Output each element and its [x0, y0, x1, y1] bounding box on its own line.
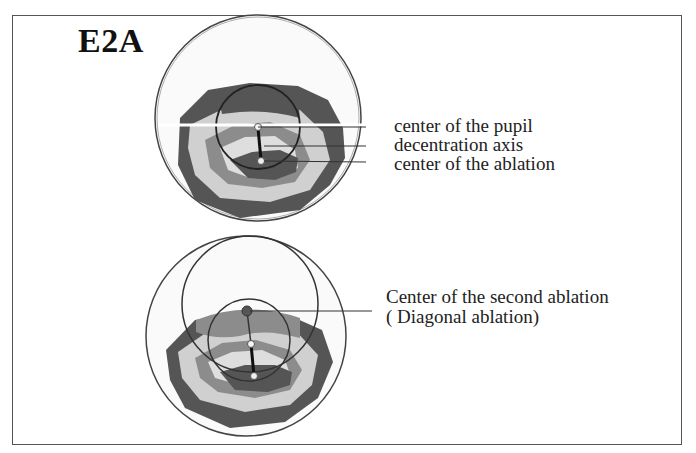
diagram-canvas	[0, 0, 696, 453]
bottom-diagram	[146, 236, 372, 436]
figure-title: E2A	[78, 22, 144, 60]
label-center-of-pupil: center of the pupil	[394, 116, 533, 136]
bottom-ablation-center-dot	[251, 373, 258, 380]
label-center-of-ablation: center of the ablation	[394, 154, 555, 174]
label-diagonal-ablation: ( Diagonal ablation)	[386, 307, 539, 327]
bottom-pupil-center-dot	[248, 341, 255, 348]
top-ablation-center-dot	[258, 158, 265, 165]
top-diagram	[155, 15, 366, 221]
label-decentration-axis: decentration axis	[394, 135, 523, 155]
label-second-ablation-center: Center of the second ablation	[386, 287, 609, 307]
